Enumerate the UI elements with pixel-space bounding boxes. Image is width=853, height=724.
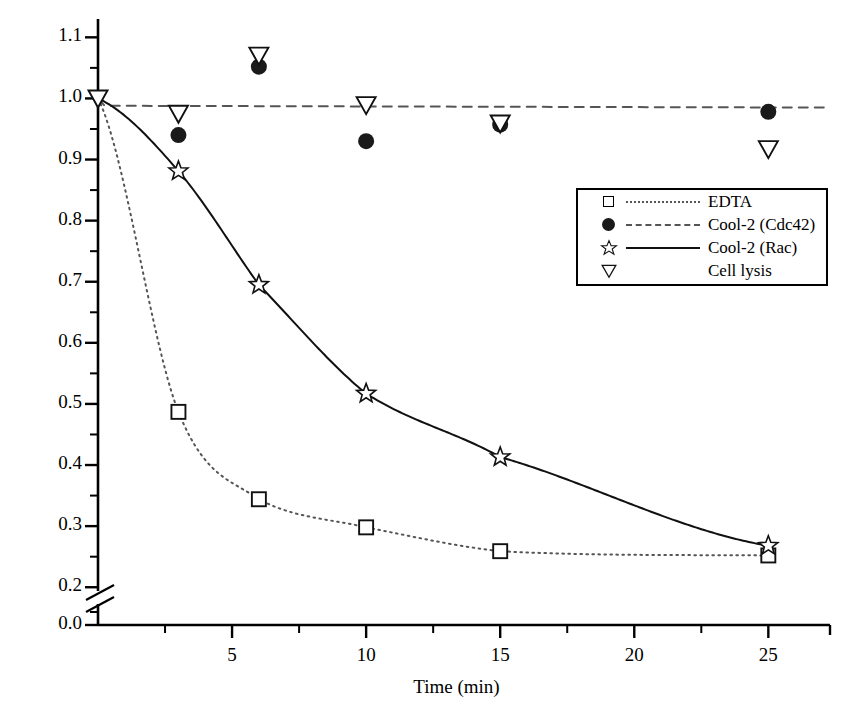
solid-line-sample — [626, 242, 700, 254]
legend-item-edta: EDTA — [592, 190, 826, 213]
open-star-icon — [592, 238, 626, 258]
y-tick-label: 0.8 — [30, 208, 82, 230]
legend-label-cell-lysis: Cell lysis — [708, 261, 772, 281]
series-line-2 — [98, 98, 768, 545]
dotted-line-sample — [626, 196, 700, 208]
y-tick-label: 1.1 — [30, 24, 82, 46]
open-triangle-down-icon — [592, 261, 626, 281]
y-tick-label: 0.9 — [30, 147, 82, 169]
y-tick-label: 1.0 — [30, 85, 82, 107]
legend-item-cool2-rac: Cool-2 (Rac) — [592, 236, 826, 259]
legend-item-cool2-cdc42: Cool-2 (Cdc42) — [592, 213, 826, 236]
plot-canvas — [0, 0, 853, 724]
data-point-filled-circle — [358, 133, 374, 149]
y-tick-label: 0.2 — [30, 574, 82, 596]
y-tick-label: 0.7 — [30, 269, 82, 291]
data-point-open-square — [493, 544, 507, 558]
data-point-open-star — [357, 384, 376, 402]
data-point-filled-circle — [170, 127, 186, 143]
data-point-open-star — [249, 275, 268, 293]
open-square-icon — [592, 192, 626, 212]
series-line-1 — [98, 98, 830, 107]
x-tick-label: 5 — [212, 644, 252, 666]
y-tick-label: 0.4 — [30, 452, 82, 474]
data-point-open-square — [359, 520, 373, 534]
data-point-open-square — [252, 492, 266, 506]
data-point-open-triangle-down — [169, 106, 188, 123]
filled-circle-icon — [592, 215, 626, 235]
y-tick-label-zero: 0.0 — [30, 612, 82, 634]
legend-label-edta: EDTA — [708, 192, 752, 212]
x-tick-label: 10 — [346, 644, 386, 666]
x-tick-label: 20 — [614, 644, 654, 666]
series-line-0 — [98, 98, 768, 555]
chart-legend: EDTA Cool-2 (Cdc42) Cool-2 (Rac) Cell ly… — [576, 188, 828, 286]
data-point-open-square — [171, 405, 185, 419]
x-tick-label: 15 — [480, 644, 520, 666]
x-tick-label: 25 — [748, 644, 788, 666]
y-tick-label: 0.3 — [30, 513, 82, 535]
y-tick-label: 0.5 — [30, 391, 82, 413]
y-tick-label: 0.6 — [30, 330, 82, 352]
data-point-open-triangle-down — [249, 48, 268, 65]
data-point-open-star — [491, 447, 510, 465]
dashed-line-sample — [626, 219, 700, 231]
data-point-filled-circle — [760, 104, 776, 120]
chart-figure: Relative amount of bound [3H]GDP Time (m… — [0, 0, 853, 724]
data-point-open-triangle-down — [759, 141, 778, 158]
legend-item-cell-lysis: Cell lysis — [592, 259, 826, 282]
no-line-sample — [626, 265, 700, 277]
legend-label-cool2-rac: Cool-2 (Rac) — [708, 238, 797, 258]
legend-label-cool2-cdc42: Cool-2 (Cdc42) — [708, 215, 815, 235]
